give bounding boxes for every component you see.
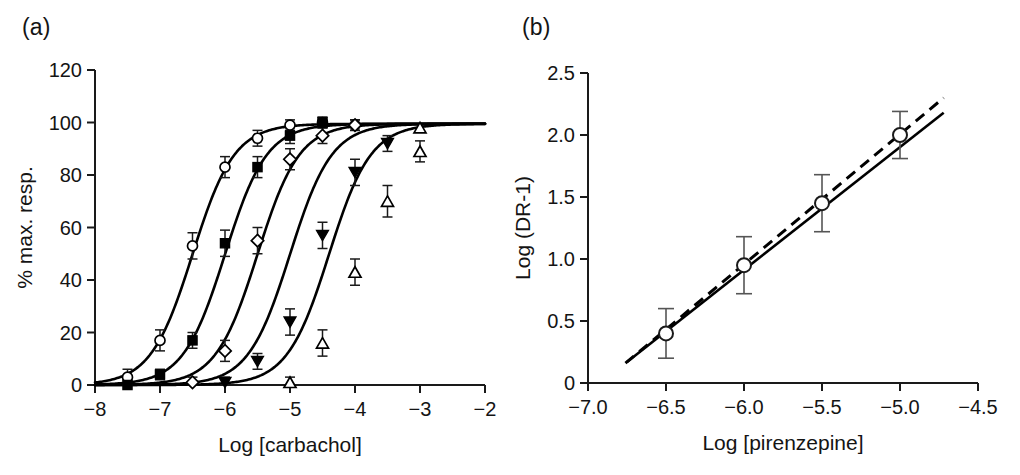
datapoint-filled-triangle-down [317,230,329,241]
panel-b-plot: 00.51.01.52.02.5−7.0−6.5−6.0−5.5−5.0−4.5… [510,0,1020,475]
x-tick-label: −7 [149,398,172,420]
y-tick-label: 0 [564,372,575,394]
datapoint-filled-square [285,131,294,140]
x-tick-label: −4.5 [958,396,997,418]
y-tick-label: 40 [60,269,82,291]
x-tick-label: −6.0 [724,396,763,418]
errorbars-group [658,111,908,358]
datapoint-open-circle [220,162,230,172]
y-tick-label: 20 [60,322,82,344]
datapoint-open-triangle-up [382,196,394,207]
x-tick-label: −5 [279,398,302,420]
fit-line-regression-fit [627,113,944,362]
y-axis-title: % max. resp. [13,166,36,289]
datapoint-open-circle [188,241,198,251]
datapoint-open-circle [253,133,263,143]
x-axis-title: Log [pirenzepine] [702,431,863,454]
datapoint-open-triangle-up [414,146,426,157]
y-tick-label: 120 [49,59,82,81]
y-tick-label: 1.0 [547,248,575,270]
y-tick-label: 0.5 [547,310,575,332]
y-tick-label: 1.5 [547,186,575,208]
datapoint-filled-square [123,380,132,389]
y-tick-label: 60 [60,217,82,239]
datapoint-filled-square [188,336,197,345]
x-tick-label: −8 [84,398,107,420]
x-axis-title: Log [carbachol] [218,433,362,456]
datapoint-filled-triangle-down [382,138,394,149]
y-tick-label: 2.0 [547,124,575,146]
panel-b: (b) 00.51.01.52.02.5−7.0−6.5−6.0−5.5−5.0… [510,0,1020,475]
figure-container: (a) 020406080100120−8−7−6−5−4−3−2Log [ca… [0,0,1020,475]
datapoint-filled-square [318,118,327,127]
x-tick-label: −5.5 [802,396,841,418]
datapoint-open-triangle-up [284,377,296,388]
datapoint-filled-square [220,239,229,248]
datapoint-open-diamond [349,119,361,131]
x-tick-label: −4 [344,398,367,420]
axes-panel-b: 00.51.01.52.02.5−7.0−6.5−6.0−5.5−5.0−4.5 [547,62,998,418]
y-tick-label: 2.5 [547,62,575,84]
datapoint-open-circle [285,120,295,130]
datapoint-filled-square [253,163,262,172]
panel-a-plot: 020406080100120−8−7−6−5−4−3−2Log [carbac… [0,0,510,475]
datapoint-open-triangle-up [317,338,329,349]
axes-panel-a: 020406080100120−8−7−6−5−4−3−2 [49,59,497,420]
y-tick-label: 80 [60,164,82,186]
datapoint-open-circle [155,335,165,345]
x-tick-label: −6 [214,398,237,420]
errorbars-group [123,117,426,385]
datapoint-filled-square [155,370,164,379]
datapoint-open-diamond [186,376,198,388]
panel-a: (a) 020406080100120−8−7−6−5−4−3−2Log [ca… [0,0,510,475]
datapoint-filled-triangle-down [252,356,264,367]
datapoint-open-circle [737,258,751,272]
datapoint-open-circle [815,196,829,210]
y-tick-label: 0 [71,374,82,396]
y-tick-label: 100 [49,112,82,134]
datapoint-open-triangle-up [349,267,361,278]
datapoint-open-diamond [316,129,328,141]
x-tick-label: −2 [474,398,497,420]
datapoints-group [123,118,427,390]
datapoint-open-circle [659,326,673,340]
x-tick-label: −3 [409,398,432,420]
x-tick-label: −6.5 [646,396,685,418]
x-tick-label: −7.0 [568,396,607,418]
y-axis-title: Log (DR-1) [511,176,534,280]
x-tick-label: −5.0 [880,396,919,418]
datapoint-open-circle [893,128,907,142]
datapoint-filled-triangle-down [284,317,296,328]
